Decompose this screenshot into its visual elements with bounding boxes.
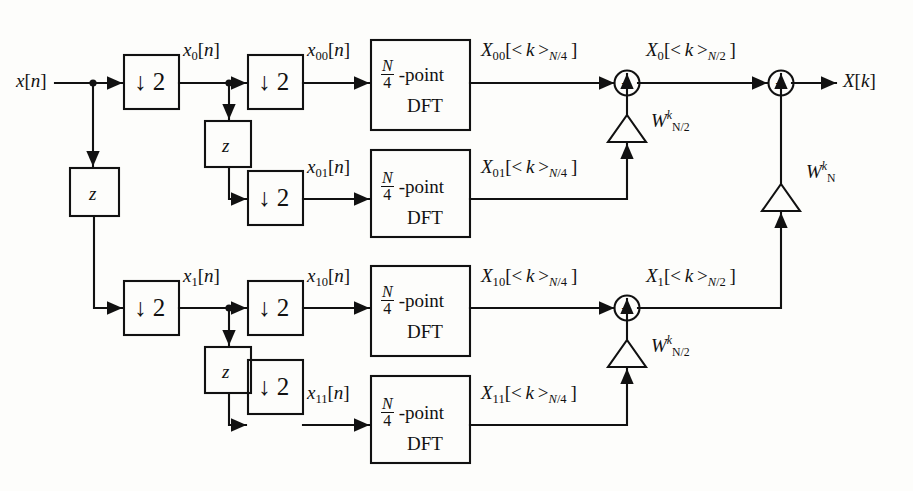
dft-01-point-text: -point bbox=[399, 176, 444, 198]
dft-10-fraction: N 4 bbox=[381, 284, 394, 317]
twiddle-bottom-sub: N/2 bbox=[672, 346, 690, 359]
signal-label-x11: x11[n] bbox=[307, 383, 350, 406]
signal-label-X01: X01[< k >N/4 ] bbox=[481, 157, 577, 180]
downsample-stage1-bottom: ↓ 2 bbox=[134, 295, 165, 320]
signal-label-X0: X0[< k >N/2 ] bbox=[646, 40, 736, 63]
downsample-stage2-10: ↓ 2 bbox=[258, 295, 289, 320]
twiddle-bottom-base: W bbox=[651, 335, 667, 356]
signal-label-output: X[k] bbox=[843, 71, 876, 90]
dft-10: N 4 -point DFT bbox=[381, 284, 461, 343]
dft-00-label: DFT bbox=[381, 95, 461, 117]
twiddle-top-sub: N/2 bbox=[672, 121, 690, 134]
dft-00-point-text: -point bbox=[399, 64, 444, 86]
dft-11-label: DFT bbox=[381, 433, 461, 455]
signal-label-x0: x0[n] bbox=[183, 40, 220, 63]
downsample-stage1-top: ↓ 2 bbox=[134, 69, 165, 94]
dft-11-point-text: -point bbox=[399, 402, 444, 424]
signal-label-input: x[n] bbox=[16, 71, 47, 90]
twiddle-final-base: W bbox=[806, 161, 822, 182]
downsample-stage2-11: ↓ 2 bbox=[258, 374, 289, 399]
signal-label-x10: x10[n] bbox=[307, 266, 350, 289]
adder-X0: + bbox=[621, 74, 632, 93]
signal-label-x01: x01[n] bbox=[307, 157, 350, 180]
dft-10-point-text: -point bbox=[399, 290, 444, 312]
dft-01-label: DFT bbox=[381, 207, 461, 229]
twiddle-top: WkN/2 bbox=[651, 109, 690, 135]
twiddle-final: WkN bbox=[806, 160, 836, 186]
downsample-stage2-00: ↓ 2 bbox=[258, 69, 289, 94]
adder-X1: + bbox=[621, 299, 632, 318]
dft-01: N 4 -point DFT bbox=[381, 170, 461, 229]
signal-label-X11: X11[< k >N/4 ] bbox=[481, 383, 577, 406]
downsample-stage2-01: ↓ 2 bbox=[258, 185, 289, 210]
twiddle-final-sub: N bbox=[827, 172, 836, 185]
dft-11: N 4 -point DFT bbox=[381, 396, 461, 455]
signal-label-X1: X1[< k >N/2 ] bbox=[646, 266, 736, 289]
dft-00-fraction: N 4 bbox=[381, 58, 394, 91]
delay-stage2-bottom: z bbox=[222, 361, 229, 383]
fft-block-diagram: + + + ↓ 2 ↓ 2 ↓ 2 ↓ 2 ↓ 2 ↓ 2 z z z N 4 … bbox=[0, 0, 913, 491]
dft-10-label: DFT bbox=[381, 321, 461, 343]
signal-label-X00: X00[< k >N/4 ] bbox=[481, 40, 577, 63]
twiddle-top-base: W bbox=[651, 110, 667, 131]
signal-label-x00: x00[n] bbox=[307, 40, 350, 63]
delay-stage1: z bbox=[89, 183, 96, 205]
signal-label-X10: X10[< k >N/4 ] bbox=[481, 266, 577, 289]
twiddle-bottom: WkN/2 bbox=[651, 334, 690, 360]
delay-stage2-top: z bbox=[222, 135, 229, 157]
dft-11-fraction: N 4 bbox=[381, 396, 394, 429]
adder-output: + bbox=[775, 74, 786, 93]
signal-label-x1: x1[n] bbox=[183, 266, 220, 289]
dft-00: N 4 -point DFT bbox=[381, 58, 461, 117]
dft-01-fraction: N 4 bbox=[381, 170, 394, 203]
